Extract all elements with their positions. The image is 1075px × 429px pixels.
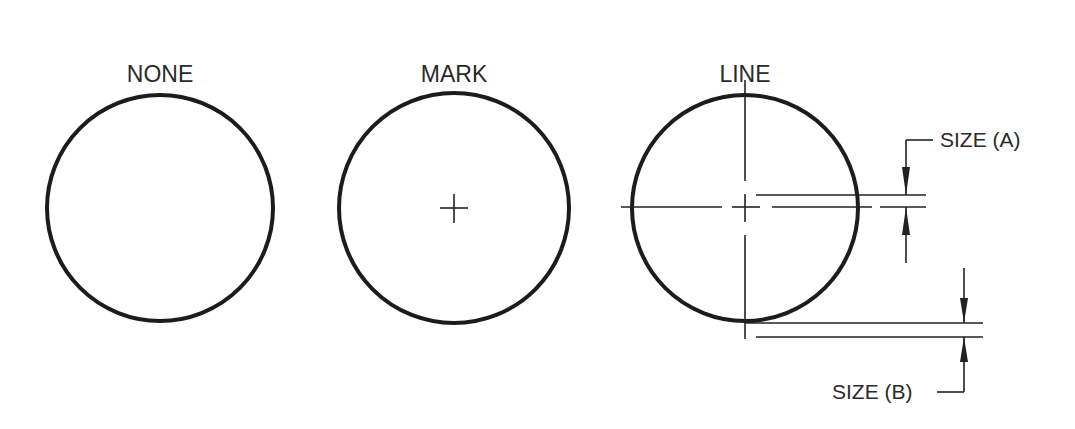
circle-none — [47, 95, 273, 321]
size-a-dimension: SIZE (A) — [756, 128, 1021, 263]
panel-mark — [339, 93, 569, 323]
panel-line: SIZE (A) SIZE (B) — [621, 80, 1021, 403]
center-mark-icon — [440, 194, 468, 223]
panel-none — [47, 95, 273, 321]
centerline-icon — [621, 80, 926, 339]
size-b-dimension: SIZE (B) — [745, 268, 983, 403]
label-none: NONE — [127, 61, 193, 87]
size-b-label: SIZE (B) — [832, 380, 913, 403]
size-a-label: SIZE (A) — [940, 128, 1021, 151]
label-mark: MARK — [421, 61, 488, 87]
center-mark-diagram: NONE MARK LINE — [0, 0, 1075, 429]
